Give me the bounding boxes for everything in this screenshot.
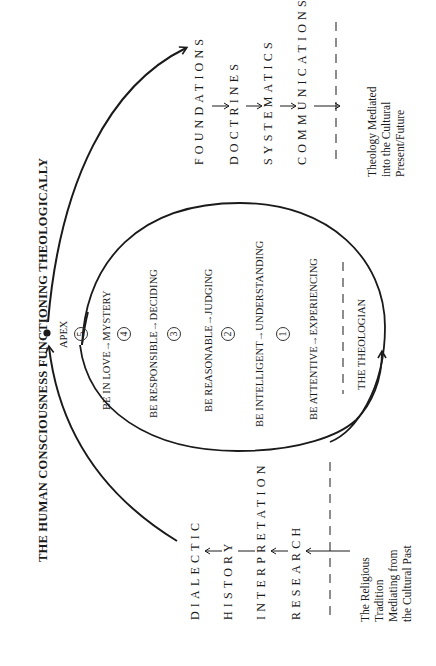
specialty-dialectic: DIALECTIC	[188, 519, 203, 620]
specialty-communications: COMMUNICATIONS	[295, 0, 310, 165]
level-reasonable-label: BE REASONABLE→JUDGING	[203, 268, 214, 412]
level-2-badge: 2	[221, 327, 235, 341]
apex-label: APEX	[58, 321, 69, 348]
theologian-label: THE THEOLOGIAN	[356, 299, 367, 390]
specialty-history: HISTORY	[221, 539, 236, 620]
mediated-caption: Theology Mediated into the Cultural Pres…	[365, 87, 407, 177]
level-3-badge: 3	[167, 327, 181, 341]
level-4-badge: 4	[117, 327, 131, 341]
specialty-systematics: SYSTEMATICS	[261, 38, 276, 165]
arc-to-foundations	[48, 48, 186, 322]
level-intelligent-label: BE INTELLIGENT→UNDERSTANDING	[254, 240, 265, 427]
diagram-title: THE HUMAN CONSCIOUSNESS FUNCTIONING THEO…	[36, 158, 51, 562]
mediating-caption: The Religious Tradition Mediating from t…	[358, 545, 414, 622]
specialty-doctrines: DOCTRINES	[227, 60, 242, 165]
specialty-interpretation: INTERPRETATION	[254, 462, 269, 621]
level-1-badge: 1	[276, 327, 290, 341]
level-love-label: BE IN LOVE→MYSTERY	[101, 290, 112, 410]
specialty-research: RESEARCH	[289, 524, 304, 620]
level-attentive-label: BE ATTENTIVE→EXPERIENCING	[308, 258, 319, 420]
apex-number-badge: 5	[74, 327, 88, 341]
level-responsible-label: BE RESPONSIBLE→DECIDING	[148, 269, 159, 418]
specialty-foundations: FOUNDATIONS	[192, 35, 207, 165]
